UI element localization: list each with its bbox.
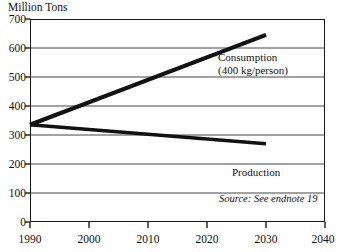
- annotations-layer: 700 600 500 400 300 200 100 0 1990 2000 …: [0, 0, 343, 252]
- y-tick-label-100: 100: [0, 187, 26, 199]
- y-tick-label-400: 400: [0, 100, 26, 112]
- x-tick-label-2020: 2020: [187, 233, 227, 245]
- series-label-production: Production: [232, 166, 280, 179]
- x-tick-label-2010: 2010: [128, 233, 168, 245]
- y-tick-label-200: 200: [0, 158, 26, 170]
- x-tick-label-2000: 2000: [69, 233, 109, 245]
- source-note: Source: See endnote 19: [219, 193, 317, 206]
- x-tick-label-1990: 1990: [10, 233, 50, 245]
- y-tick-label-700: 700: [0, 13, 26, 25]
- x-tick-label-2030: 2030: [246, 233, 286, 245]
- x-tick-label-2040: 2040: [303, 233, 343, 245]
- series-label-consumption-sublabel: (400 kg/person): [218, 64, 288, 77]
- series-label-consumption: Consumption (400 kg/person): [218, 51, 288, 76]
- series-label-consumption-text: Consumption: [218, 51, 288, 64]
- y-tick-label-500: 500: [0, 71, 26, 83]
- y-tick-label-600: 600: [0, 42, 26, 54]
- chart-container: Million Tons: [0, 0, 343, 252]
- y-tick-label-0: 0: [0, 216, 26, 228]
- y-tick-label-300: 300: [0, 129, 26, 141]
